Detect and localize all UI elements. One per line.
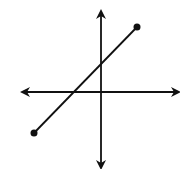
segment-end-point [134, 24, 141, 31]
coordinate-plane-diagram [0, 0, 180, 169]
segment-start-point [31, 130, 38, 137]
line-segment [31, 24, 141, 137]
